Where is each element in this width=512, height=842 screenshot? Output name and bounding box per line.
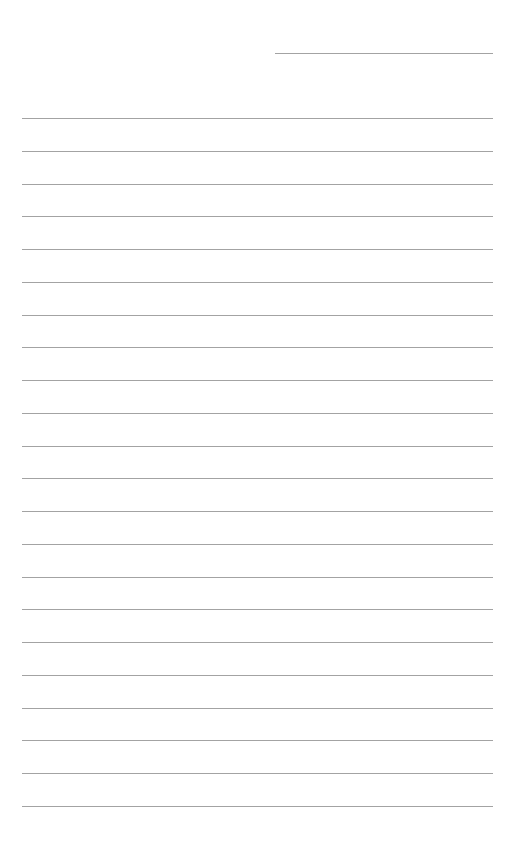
ruled-line <box>22 347 493 348</box>
ruled-line <box>22 544 493 545</box>
ruled-line <box>22 380 493 381</box>
ruled-line <box>22 642 493 643</box>
ruled-line <box>22 478 493 479</box>
lined-paper-page <box>0 0 512 842</box>
ruled-line <box>22 773 493 774</box>
ruled-line <box>22 675 493 676</box>
ruled-line <box>22 249 493 250</box>
ruled-line <box>22 806 493 807</box>
ruled-line <box>22 708 493 709</box>
ruled-line <box>22 118 493 119</box>
ruled-line <box>22 740 493 741</box>
ruled-line <box>22 216 493 217</box>
ruled-line <box>22 151 493 152</box>
ruled-line <box>22 577 493 578</box>
header-write-line <box>275 53 493 54</box>
ruled-line <box>22 511 493 512</box>
ruled-line <box>22 315 493 316</box>
ruled-line <box>22 609 493 610</box>
ruled-line <box>22 282 493 283</box>
ruled-line <box>22 413 493 414</box>
ruled-line <box>22 446 493 447</box>
ruled-line <box>22 184 493 185</box>
